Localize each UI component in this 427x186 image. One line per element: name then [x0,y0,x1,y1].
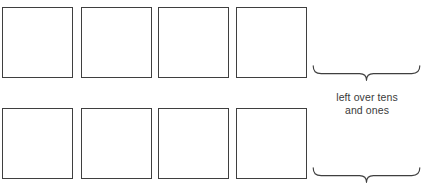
answer-box[interactable] [236,108,307,179]
brace-caption: left over tens and ones [312,91,422,116]
answer-box[interactable] [81,108,152,179]
answer-box[interactable] [2,7,73,78]
worksheet-canvas: left over tens and ones [0,0,427,186]
answer-box[interactable] [81,7,152,78]
bottom-brace [312,167,421,186]
answer-box[interactable] [158,7,229,78]
answer-box[interactable] [158,108,229,179]
top-brace [312,65,421,86]
caption-line-2: and ones [312,104,422,117]
caption-line-1: left over tens [312,91,422,104]
answer-box[interactable] [2,108,73,179]
answer-box[interactable] [236,7,307,78]
